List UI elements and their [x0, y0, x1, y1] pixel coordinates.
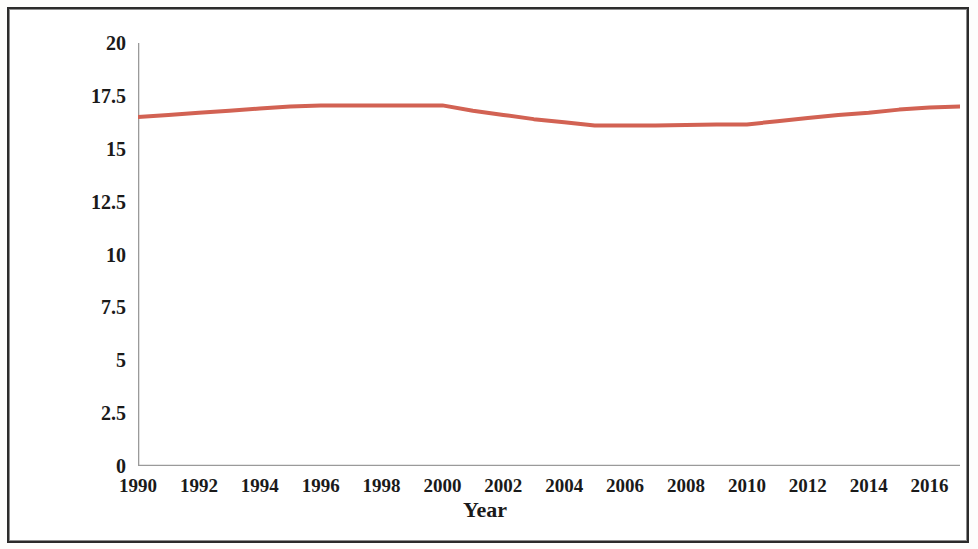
x-tick-label: 1994 — [241, 475, 279, 497]
x-tick-label: 1996 — [302, 475, 340, 497]
x-tick-label: 2002 — [484, 475, 522, 497]
y-tick-label: 10 — [106, 243, 126, 266]
y-tick-label: 12.5 — [91, 190, 126, 213]
x-tick-label: 2006 — [606, 475, 644, 497]
line-chart-svg — [138, 43, 960, 466]
page-border-frame: 02.557.51012.51517.520 19901992199419961… — [7, 7, 969, 543]
plot-area: 02.557.51012.51517.520 19901992199419961… — [138, 43, 960, 466]
x-tick-label: 2016 — [911, 475, 949, 497]
x-tick-label: 2000 — [423, 475, 461, 497]
chart-figure: 02.557.51012.51517.520 19901992199419961… — [0, 0, 978, 549]
x-tick-label: 2012 — [789, 475, 827, 497]
y-tick-label: 5 — [116, 349, 126, 372]
x-tick-label: 2008 — [667, 475, 705, 497]
y-tick-label: 7.5 — [101, 296, 126, 319]
y-tick-label: 17.5 — [91, 84, 126, 107]
x-tick-label: 2004 — [545, 475, 583, 497]
y-tick-label: 15 — [106, 137, 126, 160]
x-tick-label: 1992 — [180, 475, 218, 497]
x-axis-title: Year — [10, 497, 960, 523]
x-tick-label: 2014 — [850, 475, 888, 497]
x-tick-label: 2010 — [728, 475, 766, 497]
y-tick-label: 20 — [106, 32, 126, 55]
y-tick-label: 2.5 — [101, 402, 126, 425]
x-tick-label: 1990 — [119, 475, 157, 497]
data-series-line — [138, 105, 960, 125]
x-tick-label: 1998 — [363, 475, 401, 497]
